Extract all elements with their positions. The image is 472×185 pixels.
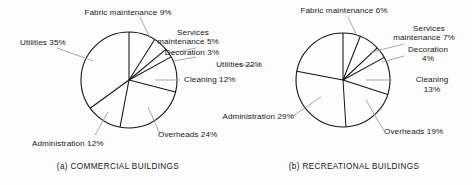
label-decoration-line2: 4% bbox=[386, 54, 470, 64]
caption-recreational-buildings: (b) RECREATIONAL BUILDINGS bbox=[236, 162, 472, 171]
caption-commercial-buildings: (a) COMMERCIAL BUILDINGS bbox=[0, 162, 236, 171]
pie-divider-services-maintenance bbox=[343, 36, 360, 80]
pie-divider-administration bbox=[120, 80, 129, 127]
label-cleaning: Cleaning 12% bbox=[184, 75, 236, 85]
label-fabric-maintenance: Fabric maintenance 6% bbox=[274, 6, 414, 16]
label-overheads: Overheads 19% bbox=[384, 127, 443, 137]
label-services-maintenance-line2: maintenance 7% bbox=[376, 33, 472, 43]
label-administration: Administration 29% bbox=[194, 112, 294, 122]
pie-divider-utilities bbox=[90, 80, 129, 108]
label-cleaning-line2: 13% bbox=[396, 85, 468, 95]
label-fabric-maintenance: Fabric maintenance 9% bbox=[58, 8, 198, 18]
pie-chart-figure-page: Fabric maintenance 9% Services maintenan… bbox=[0, 0, 472, 185]
label-decoration: Decoration 3% bbox=[148, 48, 236, 58]
label-administration: Administration 12% bbox=[32, 139, 104, 149]
label-utilities: Utilities 35% bbox=[20, 38, 66, 48]
label-overheads: Overheads 24% bbox=[158, 130, 217, 140]
label-services-maintenance-line2: maintenance 5% bbox=[140, 37, 236, 47]
leader-overheads bbox=[366, 100, 384, 131]
pie-divider-overheads bbox=[343, 80, 388, 95]
pie-divider-cleaning bbox=[129, 57, 171, 80]
chart-recreational-buildings: Fabric maintenance 6% Services maintenan… bbox=[236, 0, 472, 185]
chart-commercial-buildings: Fabric maintenance 9% Services maintenan… bbox=[0, 0, 236, 185]
pie-divider-administration bbox=[343, 80, 346, 127]
pie-divider-utilities bbox=[297, 71, 343, 80]
leader-administration bbox=[293, 97, 321, 116]
pie-divider-overheads bbox=[129, 80, 175, 92]
leader-utilities bbox=[57, 48, 93, 61]
label-cleaning-line1: Cleaning bbox=[396, 75, 468, 85]
label-utilities: Utilities 22% bbox=[184, 60, 262, 70]
